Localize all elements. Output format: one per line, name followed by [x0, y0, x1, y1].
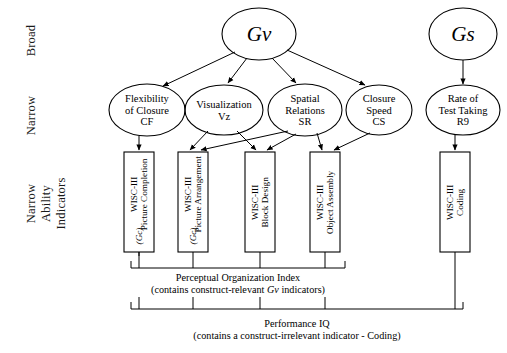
edge-sr-to-object-assembly	[317, 133, 322, 150]
layer-label-narrow: Narrow	[24, 88, 39, 144]
poi-caption-line2-em: Gv	[267, 284, 279, 295]
bracket-performance-iq	[131, 297, 463, 309]
diagram-canvas	[0, 0, 507, 353]
bracket-caption-perceptual-organization-index: Perceptual Organization Index (contains …	[108, 272, 368, 296]
narrow-factor-cf-ellipse	[109, 84, 185, 136]
bracket-caption-performance-iq: Performance IQ (contains a construct-irr…	[147, 318, 447, 342]
layer-label-broad: Broad	[24, 16, 39, 66]
narrow-factor-vz-ellipse	[185, 85, 263, 135]
poi-caption-line2-pre: (contains construct-relevant	[151, 284, 267, 295]
edge-gv-to-cs	[287, 50, 365, 85]
layer-label-indicators-ability: Ability	[39, 166, 54, 242]
narrow-factor-r9-ellipse	[426, 85, 500, 135]
indicator-box-coding	[440, 152, 470, 252]
narrow-factor-cs-ellipse	[346, 85, 412, 135]
edge-vz-to-picture-arrangement	[190, 131, 208, 150]
piq-caption-line2: (contains a construct-irrelevant indicat…	[147, 330, 447, 342]
poi-caption-line2: (contains construct-relevant Gv indicato…	[108, 284, 368, 296]
indicator-box-picture-arrangement	[178, 152, 208, 252]
edge-gv-to-sr	[272, 58, 296, 83]
indicator-box-block-design	[245, 152, 275, 252]
edge-cs-to-object-assembly	[334, 133, 370, 150]
broad-factor-gv-ellipse	[222, 8, 296, 60]
narrow-factor-sr-ellipse	[268, 84, 342, 136]
piq-caption-line1: Performance IQ	[147, 318, 447, 330]
layer-label-indicators-indicators: Indicators	[54, 166, 69, 242]
edge-sr-to-block-design	[267, 134, 296, 150]
indicator-box-object-assembly	[310, 152, 340, 252]
bracket-perceptual-organization-index	[131, 252, 345, 268]
poi-caption-line1: Perceptual Organization Index	[108, 272, 368, 284]
edge-gv-to-vz	[228, 58, 247, 83]
factor-structure-diagram: Broad Narrow Narrow Ability Indicators G…	[0, 0, 507, 353]
edge-gv-to-cf	[163, 52, 235, 86]
layer-label-indicators-narrow: Narrow	[24, 166, 39, 242]
broad-factor-gs-ellipse	[429, 8, 497, 60]
indicator-box-picture-completion	[124, 152, 154, 252]
poi-caption-line2-post: indicators)	[279, 284, 325, 295]
